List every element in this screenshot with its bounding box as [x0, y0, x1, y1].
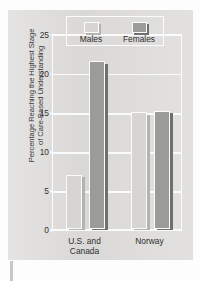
bar-females [154, 111, 170, 230]
x-axis-line [53, 229, 181, 231]
bar-males [66, 175, 82, 230]
bar-body [89, 61, 105, 229]
y-tick-label: 5 [44, 186, 49, 196]
bar-chart-figure: Percentage Reaching the Highest Stage of… [0, 0, 201, 281]
legend-item-females: Females [115, 17, 163, 45]
x-axis-label: Norway [110, 236, 190, 246]
chart-legend: Males Females [66, 16, 164, 46]
bar-body [66, 175, 82, 230]
legend-swatch-males-icon [84, 22, 99, 33]
bar-males [131, 112, 147, 229]
y-axis-title: Percentage Reaching the Highest Stage of… [27, 0, 46, 193]
legend-label-females: Females [123, 34, 155, 44]
gridline [53, 74, 181, 75]
swatch-body [84, 22, 99, 33]
y-tick-mark [50, 73, 54, 74]
y-tick-mark [50, 152, 54, 153]
y-tick-label: 20 [40, 69, 49, 79]
bar-body [131, 112, 147, 229]
y-tick-label: 15 [40, 108, 49, 118]
y-tick-mark [50, 112, 54, 113]
y-tick-mark [50, 191, 54, 192]
legend-swatch-females-icon [132, 22, 147, 33]
y-tick-label: 25 [40, 30, 49, 40]
page-edge-mark [10, 261, 13, 281]
y-tick-mark [50, 34, 54, 35]
plot-area: 0510152025 [52, 34, 182, 231]
bar-body [154, 111, 170, 230]
legend-label-males: Males [80, 34, 102, 44]
swatch-body [132, 22, 147, 33]
y-tick-label: 0 [44, 225, 49, 235]
legend-item-males: Males [67, 17, 115, 45]
y-tick-label: 10 [40, 147, 49, 157]
bar-females [89, 61, 105, 229]
